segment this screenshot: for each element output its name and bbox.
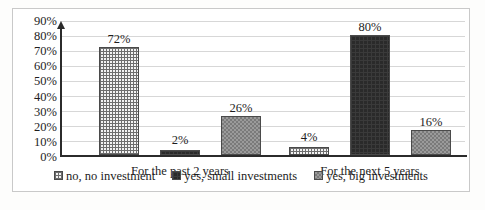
y-tick-70: 70% — [15, 45, 57, 58]
legend-item-small-investments[interactable]: yes, small investments — [172, 170, 297, 183]
bar-chart-figure: 90% 80% 70% 60% 50% 40% 30% 20% 10% 0% — [0, 0, 485, 210]
y-axis-tick-labels: 90% 80% 70% 60% 50% 40% 30% 20% 10% 0% — [13, 21, 57, 157]
legend-swatch-no-investment-icon — [54, 171, 63, 180]
bar-label-72: 72% — [108, 33, 131, 46]
y-axis-line — [60, 25, 62, 157]
legend-swatch-big-investments-icon — [314, 171, 323, 180]
legend-item-big-investments[interactable]: yes, big investments — [314, 170, 428, 183]
bar-next-small-investments — [350, 35, 390, 155]
y-tick-60: 60% — [15, 60, 57, 73]
bar-next-big-investments — [411, 130, 451, 155]
bar-label-80: 80% — [359, 21, 382, 34]
y-tick-50: 50% — [15, 75, 57, 88]
legend: no, no investment yes, small investments… — [13, 170, 469, 183]
bar-past-no-investment — [99, 47, 139, 155]
gridline-90 — [60, 21, 465, 22]
bar-past-big-investments — [221, 116, 261, 155]
x-axis-line — [60, 155, 467, 157]
bar-label-4: 4% — [301, 131, 318, 144]
bar-next-no-investment — [289, 147, 329, 155]
bar-label-26: 26% — [230, 102, 253, 115]
bar-label-16: 16% — [420, 116, 443, 129]
y-tick-0: 0% — [15, 151, 57, 164]
legend-item-no-investment[interactable]: no, no investment — [54, 170, 155, 183]
y-tick-30: 30% — [15, 105, 57, 118]
legend-label-small-investments: yes, small investments — [184, 170, 297, 183]
y-tick-10: 10% — [15, 136, 57, 149]
chart-frame: 90% 80% 70% 60% 50% 40% 30% 20% 10% 0% — [12, 8, 470, 192]
y-tick-20: 20% — [15, 121, 57, 134]
y-axis-arrow-icon — [57, 21, 65, 29]
plot-area: 72% 2% 26% 4% 80% 16% — [60, 21, 465, 157]
y-tick-90: 90% — [15, 15, 57, 28]
legend-label-big-investments: yes, big investments — [326, 170, 428, 183]
legend-swatch-small-investments-icon — [172, 171, 181, 180]
bar-label-2: 2% — [172, 134, 189, 147]
y-tick-40: 40% — [15, 90, 57, 103]
legend-label-no-investment: no, no investment — [66, 170, 155, 183]
y-tick-80: 80% — [15, 30, 57, 43]
